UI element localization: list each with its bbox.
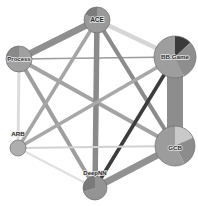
node-label-ace: ACE: [90, 16, 104, 23]
graph-edge-arb-gcb: [18, 146, 175, 148]
network-graph-figure: ACEProcessBB.GameARBGCBDeepNN: [0, 0, 198, 206]
node-label-process: Process: [7, 56, 31, 62]
graph-node-deepnn[interactable]: [83, 176, 107, 200]
edge-layer: [18, 20, 175, 188]
node-label-bbgame: BB.Game: [161, 53, 189, 60]
network-graph-canvas: ACEProcessBB.GameARBGCBDeepNN: [0, 0, 198, 206]
node-label-gcb: GCB: [168, 144, 182, 151]
node-label-deepnn: DeepNN: [83, 170, 106, 176]
node-label-arb: ARB: [11, 130, 25, 137]
graph-node-arb[interactable]: [10, 140, 26, 156]
